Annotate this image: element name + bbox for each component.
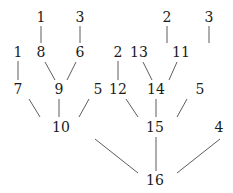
- tree-edge: [79, 99, 89, 117]
- tree-edge: [143, 62, 152, 80]
- tree-node: 1: [14, 45, 23, 59]
- tree-node: 2: [163, 10, 172, 24]
- tree-node: 10: [52, 120, 70, 134]
- tree-node: 7: [14, 82, 23, 96]
- tree-node: 13: [130, 45, 148, 59]
- tree-node: 3: [76, 10, 85, 24]
- tree-node: 8: [37, 45, 46, 59]
- tree-node: 6: [76, 45, 85, 59]
- tree-edge: [67, 62, 76, 80]
- tree-node: 9: [55, 82, 64, 96]
- tree-node: 12: [109, 82, 127, 96]
- tree-node: 5: [94, 82, 103, 96]
- tree-node: 1: [37, 10, 46, 24]
- tree-edge: [95, 139, 138, 173]
- tree-node: 5: [196, 82, 205, 96]
- tree-node: 15: [146, 120, 164, 134]
- tree-node: 16: [146, 173, 164, 187]
- tree-diagram: 132318621311795121451015416: [0, 0, 233, 193]
- tree-node: 3: [205, 10, 214, 24]
- tree-edge: [45, 62, 55, 80]
- tree-edge: [29, 99, 40, 117]
- tree-node: 14: [147, 82, 165, 96]
- tree-node: 2: [114, 45, 123, 59]
- tree-edge: [169, 62, 177, 80]
- tree-edge: [177, 139, 220, 173]
- tree-node: 4: [215, 120, 224, 134]
- tree-node: 11: [172, 45, 190, 59]
- tree-edge: [177, 99, 187, 117]
- tree-edge: [126, 99, 138, 117]
